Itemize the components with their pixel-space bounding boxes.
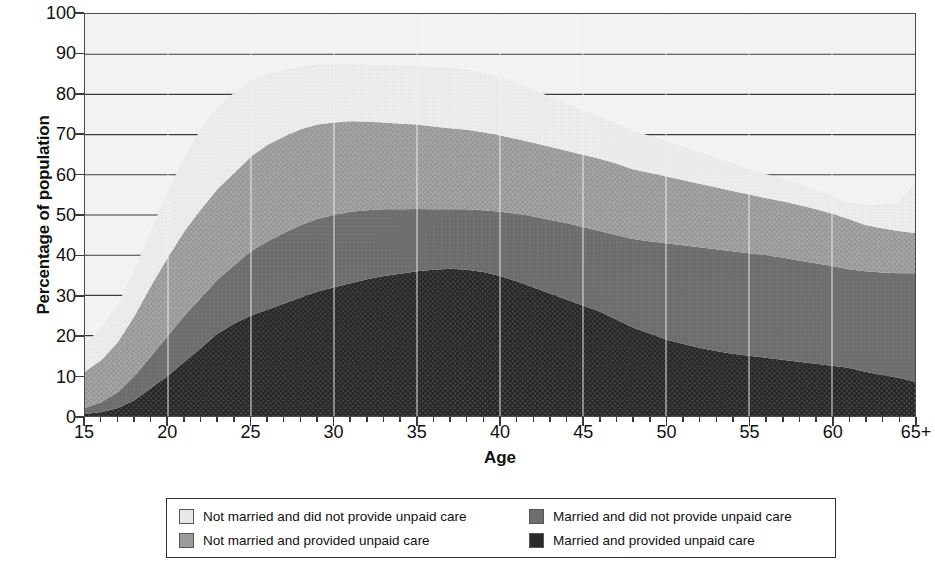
x-tick-mark-minor — [100, 417, 102, 422]
y-tick-label: 60 — [6, 166, 76, 184]
x-tick-mark-minor — [366, 417, 368, 422]
x-tick-mark-minor — [516, 417, 518, 422]
x-tick-mark-minor — [765, 417, 767, 422]
x-axis-title: Age — [84, 448, 916, 468]
x-tick-mark-minor — [200, 417, 202, 422]
x-tick-mark-minor — [216, 417, 218, 422]
x-tick-mark-minor — [433, 417, 435, 422]
x-tick-mark-major — [333, 417, 335, 426]
y-tick-mark — [74, 133, 84, 135]
legend-item-not-married-no-care: Not married and did not provide unpaid c… — [179, 504, 529, 528]
x-tick-mark-minor — [682, 417, 684, 422]
y-tick-label: 80 — [6, 85, 76, 103]
x-tick-mark-minor — [449, 417, 451, 422]
x-tick-mark-minor — [632, 417, 634, 422]
plot-canvas — [85, 14, 915, 416]
y-axis-ticks: 0102030405060708090100 — [0, 0, 76, 417]
legend-item-married-care: Married and provided unpaid care — [529, 528, 825, 552]
x-tick-mark-major — [166, 417, 168, 426]
x-tick-mark-minor — [732, 417, 734, 422]
y-tick-mark — [74, 12, 84, 14]
y-tick-label: 90 — [6, 44, 76, 62]
x-tick-mark-minor — [566, 417, 568, 422]
x-tick-mark-minor — [183, 417, 185, 422]
x-tick-mark-minor — [466, 417, 468, 422]
legend-item-married-no-care: Married and did not provide unpaid care — [529, 504, 825, 528]
legend-swatch-icon — [179, 533, 194, 548]
legend-label: Not married and provided unpaid care — [203, 533, 430, 548]
x-tick-mark-minor — [899, 417, 901, 422]
x-tick-mark-minor — [383, 417, 385, 422]
x-tick-mark-minor — [349, 417, 351, 422]
y-tick-label: 10 — [6, 368, 76, 386]
x-tick-mark-major — [499, 417, 501, 426]
legend-swatch-icon — [179, 509, 194, 524]
legend-swatch-icon — [529, 533, 544, 548]
y-tick-mark — [74, 295, 84, 297]
x-tick-mark-minor — [533, 417, 535, 422]
x-tick-mark-major — [666, 417, 668, 426]
x-tick-label: 65+ — [886, 423, 935, 441]
x-tick-mark-major — [749, 417, 751, 426]
y-tick-mark — [74, 53, 84, 55]
y-tick-mark — [74, 93, 84, 95]
x-tick-mark-minor — [316, 417, 318, 422]
x-tick-mark-major — [416, 417, 418, 426]
legend-item-not-married-care: Not married and provided unpaid care — [179, 528, 529, 552]
x-tick-mark-major — [915, 417, 917, 426]
x-tick-mark-minor — [300, 417, 302, 422]
stacked-area-chart-figure: Percentage of population 010203040506070… — [0, 0, 935, 565]
x-tick-mark-minor — [483, 417, 485, 422]
legend-swatch-icon — [529, 509, 544, 524]
x-tick-mark-minor — [266, 417, 268, 422]
x-tick-mark-minor — [616, 417, 618, 422]
x-tick-mark-minor — [782, 417, 784, 422]
chart-legend: Not married and did not provide unpaid c… — [166, 498, 836, 558]
y-tick-label: 100 — [6, 4, 76, 22]
y-tick-label: 50 — [6, 206, 76, 224]
x-tick-mark-minor — [549, 417, 551, 422]
plot-area — [84, 13, 916, 417]
legend-label: Not married and did not provide unpaid c… — [203, 509, 466, 524]
x-tick-mark-minor — [283, 417, 285, 422]
x-tick-mark-minor — [699, 417, 701, 422]
legend-label: Married and provided unpaid care — [553, 533, 755, 548]
x-tick-mark-minor — [117, 417, 119, 422]
x-tick-mark-minor — [815, 417, 817, 422]
x-tick-mark-major — [83, 417, 85, 426]
y-tick-label: 40 — [6, 246, 76, 264]
x-tick-mark-minor — [399, 417, 401, 422]
y-tick-mark — [74, 335, 84, 337]
y-tick-label: 20 — [6, 327, 76, 345]
y-tick-mark — [74, 255, 84, 257]
y-tick-label: 70 — [6, 125, 76, 143]
x-tick-mark-major — [250, 417, 252, 426]
x-tick-mark-minor — [882, 417, 884, 422]
x-tick-mark-minor — [716, 417, 718, 422]
x-tick-mark-minor — [150, 417, 152, 422]
x-tick-mark-minor — [599, 417, 601, 422]
y-tick-label: 30 — [6, 287, 76, 305]
x-tick-mark-minor — [233, 417, 235, 422]
y-tick-mark — [74, 214, 84, 216]
x-tick-mark-major — [832, 417, 834, 426]
x-tick-mark-minor — [133, 417, 135, 422]
x-tick-mark-minor — [799, 417, 801, 422]
y-tick-mark — [74, 174, 84, 176]
x-tick-mark-minor — [849, 417, 851, 422]
x-tick-mark-major — [582, 417, 584, 426]
y-tick-mark — [74, 376, 84, 378]
legend-label: Married and did not provide unpaid care — [553, 509, 792, 524]
x-tick-mark-minor — [865, 417, 867, 422]
x-tick-mark-minor — [649, 417, 651, 422]
